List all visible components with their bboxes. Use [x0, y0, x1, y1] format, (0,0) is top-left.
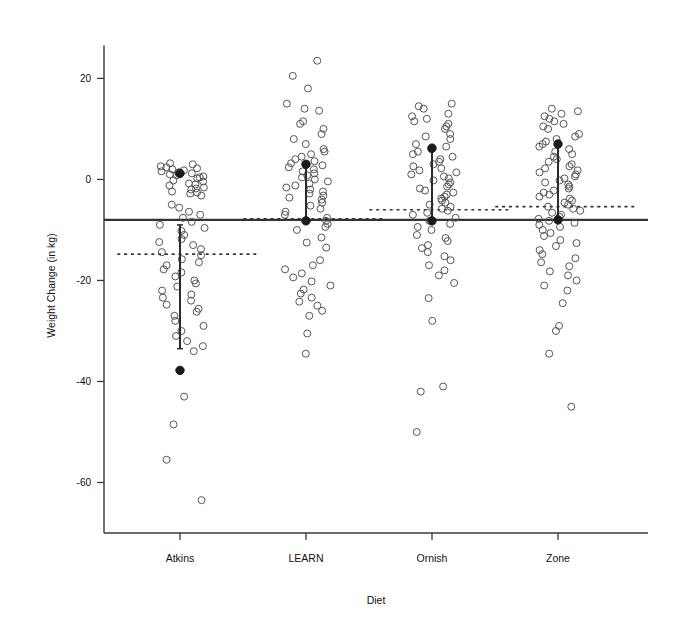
y-axis-tick-label: -20	[77, 275, 92, 286]
group-mean-point-lower	[176, 366, 184, 374]
x-axis-category-label-atkins: Atkins	[166, 552, 195, 564]
weight-change-strip-plot: 200-20-40-60AtkinsLEARNOrnishZoneDietWei…	[0, 0, 675, 637]
group-mean-point-upper	[554, 140, 562, 148]
y-axis-tick-label: 20	[80, 73, 92, 84]
group-mean-point-upper	[428, 144, 436, 152]
y-axis-tick-label: -60	[77, 477, 92, 488]
group-mean-point-upper	[176, 169, 184, 177]
group-mean-point-lower	[554, 216, 562, 224]
chart-canvas: 200-20-40-60AtkinsLEARNOrnishZoneDietWei…	[0, 0, 675, 637]
group-mean-point-upper	[302, 160, 310, 168]
group-mean-point-lower	[428, 217, 436, 225]
x-axis-title: Diet	[367, 594, 386, 606]
group-mean-point-lower	[302, 217, 310, 225]
x-axis-category-label-learn: LEARN	[288, 552, 323, 564]
x-axis-category-label-zone: Zone	[546, 552, 570, 564]
y-axis-tick-label: -40	[77, 376, 92, 387]
y-axis-title: Weight Change (in kg)	[45, 233, 57, 337]
chart-background	[0, 0, 675, 637]
y-axis-tick-label: 0	[85, 174, 91, 185]
x-axis-category-label-ornish: Ornish	[417, 552, 448, 564]
